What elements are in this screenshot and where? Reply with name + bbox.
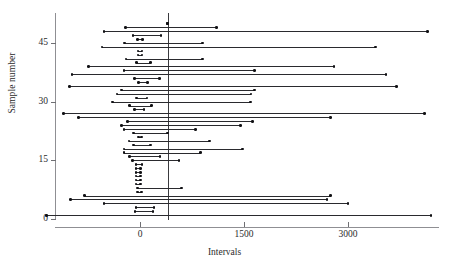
interval-endpoint-marker <box>146 97 149 100</box>
interval-endpoint-marker <box>199 151 202 154</box>
interval-endpoint-marker <box>347 202 350 205</box>
confidence-interval-line <box>64 113 425 114</box>
confidence-interval-line <box>124 153 200 154</box>
interval-endpoint-marker <box>140 191 143 194</box>
interval-endpoint-marker <box>135 183 138 186</box>
interval-endpoint-marker <box>329 194 332 197</box>
interval-endpoint-marker <box>141 54 144 57</box>
confidence-interval-line <box>121 90 254 91</box>
interval-endpoint-marker <box>103 30 106 33</box>
plot-area: 0153045015003000 <box>56 14 439 219</box>
interval-endpoint-marker <box>133 108 136 111</box>
interval-endpoint-marker <box>132 144 135 147</box>
chart-figure: Sample number Intervals 0153045015003000 <box>0 0 449 268</box>
interval-endpoint-marker <box>120 124 123 127</box>
interval-endpoint-marker <box>135 171 138 174</box>
interval-endpoint-marker <box>249 101 252 104</box>
interval-endpoint-marker <box>123 128 126 131</box>
y-axis-tick <box>51 219 56 220</box>
interval-endpoint-marker <box>166 22 169 25</box>
confidence-interval-line <box>125 27 216 28</box>
interval-endpoint-marker <box>135 167 138 170</box>
confidence-interval-line <box>117 94 251 95</box>
interval-endpoint-marker <box>62 112 65 115</box>
interval-endpoint-marker <box>141 163 144 166</box>
confidence-interval-line <box>130 156 161 157</box>
confidence-interval-line <box>135 211 153 212</box>
interval-endpoint-marker <box>87 65 90 68</box>
x-axis-tick <box>244 222 245 227</box>
confidence-interval-line <box>137 188 181 189</box>
interval-endpoint-marker <box>120 89 123 92</box>
interval-endpoint-marker <box>239 124 242 127</box>
interval-endpoint-marker <box>140 136 143 139</box>
interval-endpoint-marker <box>250 93 253 96</box>
interval-endpoint-marker <box>137 54 140 57</box>
interval-endpoint-marker <box>128 155 131 158</box>
confidence-interval-line <box>104 203 348 204</box>
interval-endpoint-marker <box>128 104 131 107</box>
interval-endpoint-marker <box>139 167 142 170</box>
interval-endpoint-marker <box>253 89 256 92</box>
interval-endpoint-marker <box>208 140 211 143</box>
y-axis-tick <box>51 43 56 44</box>
interval-endpoint-marker <box>251 120 254 123</box>
confidence-interval-line <box>125 43 203 44</box>
interval-endpoint-marker <box>139 171 142 174</box>
interval-endpoint-marker <box>430 214 433 217</box>
interval-endpoint-marker <box>124 26 127 29</box>
x-axis-line <box>55 227 439 228</box>
confidence-interval-line <box>134 145 151 146</box>
confidence-interval-line <box>72 74 386 75</box>
confidence-interval-line <box>124 149 243 150</box>
interval-endpoint-marker <box>45 214 48 217</box>
confidence-interval-line <box>78 117 330 118</box>
confidence-interval-line <box>104 31 428 32</box>
interval-endpoint-marker <box>201 42 204 45</box>
interval-endpoint-marker <box>101 46 104 49</box>
confidence-interval-line <box>130 106 152 107</box>
interval-endpoint-marker <box>326 198 329 201</box>
y-axis-tick <box>51 102 56 103</box>
confidence-interval-line <box>132 160 178 161</box>
interval-endpoint-marker <box>103 202 106 205</box>
interval-endpoint-marker <box>141 50 144 53</box>
interval-endpoint-marker <box>139 183 142 186</box>
interval-endpoint-marker <box>83 194 86 197</box>
interval-endpoint-marker <box>132 132 135 135</box>
confidence-interval-line <box>126 59 202 60</box>
interval-endpoint-marker <box>385 73 388 76</box>
confidence-interval-line <box>128 121 253 122</box>
x-axis-tick <box>348 222 349 227</box>
interval-endpoint-marker <box>139 175 142 178</box>
interval-endpoint-marker <box>141 38 144 41</box>
interval-endpoint-marker <box>135 163 138 166</box>
confidence-interval-line <box>46 215 431 216</box>
interval-endpoint-marker <box>68 85 71 88</box>
y-axis-tick <box>51 160 56 161</box>
interval-endpoint-marker <box>77 116 80 119</box>
confidence-interval-line <box>129 141 209 142</box>
interval-endpoint-marker <box>201 58 204 61</box>
confidence-interval-line <box>136 207 154 208</box>
interval-endpoint-marker <box>137 81 140 84</box>
x-axis-tick-label: 3000 <box>328 230 368 240</box>
interval-endpoint-marker <box>241 148 244 151</box>
interval-endpoint-marker <box>146 81 149 84</box>
interval-endpoint-marker <box>374 46 377 49</box>
interval-endpoint-marker <box>132 34 135 37</box>
y-axis-tick-label: 30 <box>18 97 48 107</box>
interval-endpoint-marker <box>111 101 114 104</box>
x-axis-tick-label: 1500 <box>224 230 264 240</box>
interval-endpoint-marker <box>123 42 126 45</box>
confidence-interval-line <box>89 66 334 67</box>
interval-endpoint-marker <box>139 179 142 182</box>
interval-endpoint-marker <box>136 187 139 190</box>
confidence-interval-line <box>124 129 195 130</box>
interval-endpoint-marker <box>69 198 72 201</box>
interval-endpoint-marker <box>135 206 138 209</box>
interval-endpoint-marker <box>329 116 332 119</box>
interval-endpoint-marker <box>395 85 398 88</box>
interval-endpoint-marker <box>128 140 131 143</box>
y-axis-tick-label: 15 <box>18 155 48 165</box>
